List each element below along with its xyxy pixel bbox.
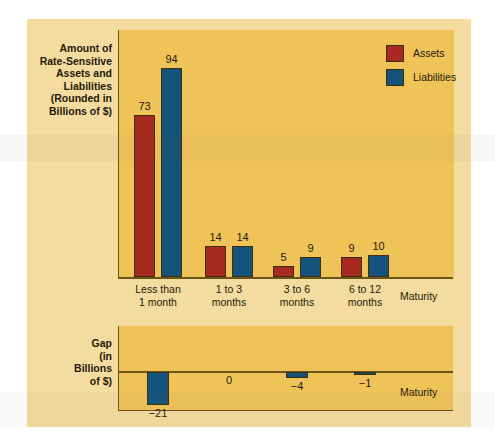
bar-assets-3-to-6-months xyxy=(273,266,294,277)
category-line: months xyxy=(320,296,410,309)
caption-line: Gap xyxy=(18,337,112,350)
gap-chart-y-axis-caption: Gap (in Billions of $) xyxy=(18,337,112,387)
gap-bar-6-to-12-months xyxy=(354,372,376,375)
caption-line: Liabilities xyxy=(18,80,112,93)
caption-line: Billions xyxy=(18,362,112,375)
gap-value-0: −21 xyxy=(136,407,180,419)
legend-item-liabilities: Liabilities xyxy=(386,65,470,89)
bar-assets-less-than-1-month xyxy=(134,115,155,277)
gap-chart-x-axis-name: Maturity xyxy=(400,386,437,398)
caption-line: Rate-Sensitive xyxy=(18,55,112,68)
bar-liabilities-1-to-3-months xyxy=(232,246,253,277)
caption-line: Billions of $) xyxy=(18,105,112,118)
bar-value-liabilities-0: 94 xyxy=(153,53,190,65)
legend-label-liabilities: Liabilities xyxy=(413,71,456,83)
legend-item-assets: Assets xyxy=(386,41,470,65)
gap-value-3: −1 xyxy=(343,377,387,389)
bar-assets-6-to-12-months xyxy=(341,257,362,277)
bar-value-liabilities-2: 9 xyxy=(292,242,329,254)
caption-line: Assets and xyxy=(18,67,112,80)
bar-value-assets-0: 73 xyxy=(126,100,163,112)
upper-chart-baseline xyxy=(118,277,453,279)
caption-line: Amount of xyxy=(18,42,112,55)
upper-chart-x-axis-name: Maturity xyxy=(400,290,437,302)
figure-root: Amount of Rate-Sensitive Assets and Liab… xyxy=(0,0,495,448)
gap-bar-3-to-6-months xyxy=(286,372,308,378)
x-axis-category-3: 6 to 12 months xyxy=(320,283,410,308)
gap-bar-less-than-1-month xyxy=(147,372,169,405)
gap-value-1: 0 xyxy=(207,374,251,386)
bar-assets-1-to-3-months xyxy=(205,246,226,277)
bar-value-liabilities-3: 10 xyxy=(360,240,397,252)
legend-swatch-assets-icon xyxy=(386,45,404,62)
caption-line: (Rounded in xyxy=(18,92,112,105)
chart-legend: Assets Liabilities xyxy=(386,41,470,89)
bar-liabilities-less-than-1-month xyxy=(161,68,182,277)
category-line: 6 to 12 xyxy=(320,283,410,296)
legend-swatch-liabilities-icon xyxy=(386,69,404,86)
gap-value-2: −4 xyxy=(275,380,319,392)
caption-line: (in xyxy=(18,350,112,363)
bar-liabilities-6-to-12-months xyxy=(368,255,389,277)
caption-line: of $) xyxy=(18,375,112,388)
upper-chart-y-axis-caption: Amount of Rate-Sensitive Assets and Liab… xyxy=(18,42,112,118)
bar-value-liabilities-1: 14 xyxy=(224,231,261,243)
legend-label-assets: Assets xyxy=(413,47,445,59)
bar-liabilities-3-to-6-months xyxy=(300,257,321,277)
